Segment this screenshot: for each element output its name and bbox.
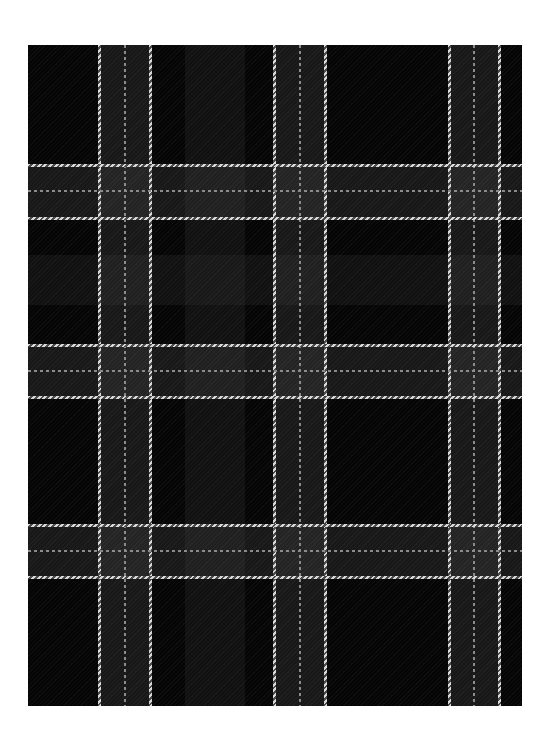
vertical-stripe — [448, 45, 451, 706]
vertical-thin-stripe — [124, 45, 126, 706]
vertical-thin-stripe — [299, 45, 301, 706]
horizontal-stripe — [28, 576, 522, 579]
horizontal-thin-stripe — [28, 190, 522, 192]
vertical-stripe — [98, 45, 101, 706]
horizontal-thin-stripe — [28, 550, 522, 552]
vertical-stripe — [149, 45, 152, 706]
vertical-thin-stripe — [473, 45, 475, 706]
horizontal-stripe — [28, 396, 522, 399]
horizontal-stripe — [28, 217, 522, 220]
vertical-stripe — [273, 45, 276, 706]
horizontal-stripe — [28, 344, 522, 347]
horizontal-stripe — [28, 524, 522, 527]
vertical-stripe — [498, 45, 501, 706]
horizontal-stripe — [28, 164, 522, 167]
tartan-fabric — [28, 45, 522, 706]
vertical-stripe — [324, 45, 327, 706]
horizontal-thin-stripe — [28, 370, 522, 372]
